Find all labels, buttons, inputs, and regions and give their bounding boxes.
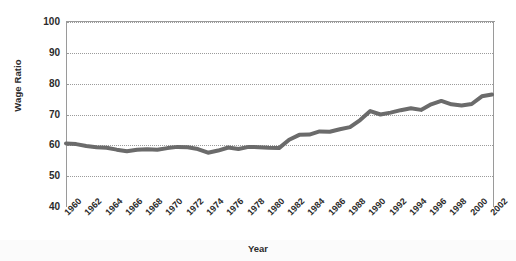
x-tick-label-1980: 1980: [266, 197, 287, 218]
x-tick-label-1982: 1982: [286, 197, 307, 218]
x-tick-label-1974: 1974: [205, 197, 226, 218]
x-tick-label-1986: 1986: [327, 197, 348, 218]
x-tick-label-1978: 1978: [246, 197, 267, 218]
x-tick-label-2000: 2000: [469, 197, 490, 218]
x-tick-label-1992: 1992: [388, 197, 409, 218]
x-tick-label-1966: 1966: [124, 197, 145, 218]
x-tick-label-1964: 1964: [104, 197, 125, 218]
x-tick-label-1988: 1988: [347, 197, 368, 218]
x-tick-label-2002: 2002: [489, 197, 510, 218]
x-tick-label-1968: 1968: [144, 197, 165, 218]
x-tick-label-1990: 1990: [367, 197, 388, 218]
x-tick-label-1998: 1998: [448, 197, 469, 218]
x-tick-label-1962: 1962: [83, 197, 104, 218]
x-axis-title: Year: [0, 243, 516, 254]
x-tick-label-1984: 1984: [306, 197, 327, 218]
wage-ratio-line-chart: Wage Ratio 100908070605040 1960196219641…: [0, 0, 516, 261]
x-tick-label-1960: 1960: [63, 197, 84, 218]
x-tick-label-1972: 1972: [185, 197, 206, 218]
x-axis-tick-labels: 1960196219641966196819701972197419761978…: [0, 0, 516, 261]
x-tick-label-1996: 1996: [428, 197, 449, 218]
x-tick-label-1970: 1970: [164, 197, 185, 218]
x-tick-label-1976: 1976: [225, 197, 246, 218]
x-tick-label-1994: 1994: [408, 197, 429, 218]
